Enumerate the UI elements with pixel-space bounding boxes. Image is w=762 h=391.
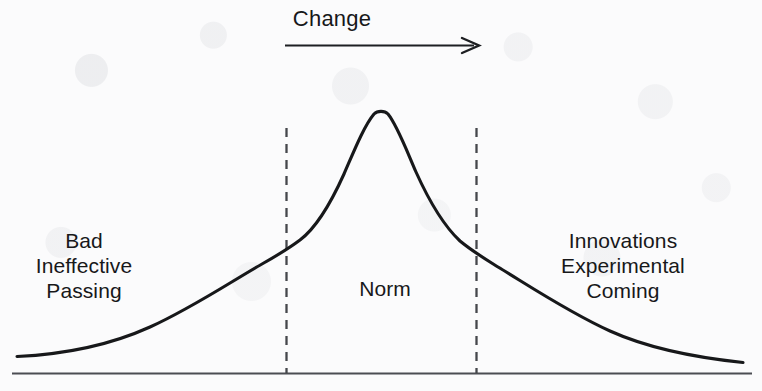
left-region-label: Bad Ineffective Passing [0,228,168,303]
right-region-label-line1: Innovations [526,228,720,253]
plot-canvas [0,0,762,391]
right-region-label-line2: Experimental [526,253,720,278]
distribution-curve-figure: Change Bad Ineffective Passing Norm Inno… [0,0,762,391]
change-label-text: Change [293,6,371,32]
change-label: Change [0,6,762,32]
right-region-label: Innovations Experimental Coming [526,228,720,303]
center-region-label: Norm [320,276,450,301]
left-region-label-line3: Passing [0,278,168,303]
right-region-label-line3: Coming [526,278,720,303]
center-region-label-line1: Norm [320,276,450,301]
left-region-label-line1: Bad [0,228,168,253]
left-region-label-line2: Ineffective [0,253,168,278]
